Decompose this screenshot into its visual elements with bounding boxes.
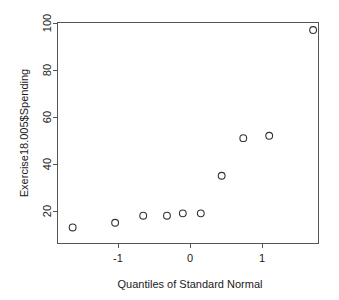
x-axis-tick-labels: -1 0 1 bbox=[113, 252, 265, 264]
data-point bbox=[197, 210, 204, 217]
plot-frame-box bbox=[58, 23, 319, 244]
data-point bbox=[266, 132, 273, 139]
data-point bbox=[164, 212, 171, 219]
x-tick-label-0: 0 bbox=[187, 252, 193, 264]
x-tick-label-1: 1 bbox=[259, 252, 265, 264]
y-tick-label-60: 60 bbox=[41, 111, 53, 123]
data-point bbox=[179, 210, 186, 217]
x-tick-label-neg1: -1 bbox=[113, 252, 123, 264]
data-points-group bbox=[69, 27, 316, 231]
y-tick-label-100: 100 bbox=[41, 14, 53, 32]
y-axis-ticks bbox=[53, 23, 58, 211]
y-axis-title: Exercise18.005$Spending bbox=[18, 69, 30, 197]
data-point bbox=[218, 172, 225, 179]
x-axis-title: Quantiles of Standard Normal bbox=[118, 278, 263, 290]
data-point bbox=[112, 219, 119, 226]
data-point bbox=[69, 224, 76, 231]
plot-canvas: 100 80 60 40 20 Exercise18.005$Spending … bbox=[0, 0, 339, 300]
x-axis-ticks bbox=[118, 244, 262, 249]
data-point bbox=[240, 135, 247, 142]
y-tick-label-40: 40 bbox=[41, 158, 53, 170]
y-tick-label-20: 20 bbox=[41, 205, 53, 217]
data-point bbox=[310, 27, 317, 34]
y-axis-tick-labels: 100 80 60 40 20 bbox=[41, 14, 53, 217]
y-tick-label-80: 80 bbox=[41, 64, 53, 76]
data-point bbox=[140, 212, 147, 219]
qq-plot-figure: 100 80 60 40 20 Exercise18.005$Spending … bbox=[0, 0, 339, 300]
